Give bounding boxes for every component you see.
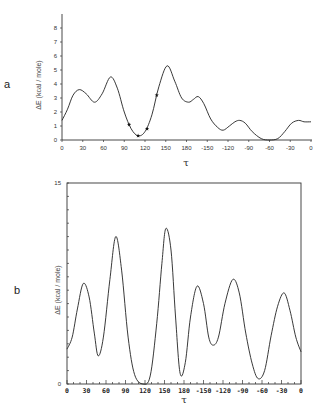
y-tick-label-a: 0 bbox=[54, 137, 58, 143]
panel-label-b: b bbox=[14, 284, 20, 296]
x-tick-label-b: 0 bbox=[65, 387, 69, 395]
x-tick-label-b: -120 bbox=[215, 387, 231, 395]
x-tick-label-b: -90 bbox=[237, 387, 249, 395]
y-axis-label-b: ΔE (kcal / mole) bbox=[54, 265, 62, 314]
x-tick-label-a: 90 bbox=[121, 145, 128, 151]
x-tick-label-a: -90 bbox=[244, 145, 253, 151]
star-marker bbox=[127, 122, 131, 126]
x-tick-label-a: 60 bbox=[100, 145, 107, 151]
x-tick-label-a: -150 bbox=[201, 145, 214, 151]
x-tick-label-b: -30 bbox=[276, 387, 288, 395]
y-tick-label-a: 2 bbox=[54, 109, 58, 115]
x-tick-label-a: 0 bbox=[60, 145, 64, 151]
y-tick-label-a: 6 bbox=[54, 53, 58, 59]
y-tick-label-a: 3 bbox=[54, 95, 58, 101]
y-tick-label-b: 15 bbox=[54, 180, 61, 186]
x-tick-label-b: 0 bbox=[299, 387, 303, 395]
y-tick-label-a: 8 bbox=[54, 25, 58, 31]
x-tick-label-a: -60 bbox=[265, 145, 274, 151]
y-tick-label-a: 5 bbox=[54, 67, 58, 73]
curve-a bbox=[62, 66, 311, 140]
y-tick-label-a: 1 bbox=[54, 123, 58, 129]
x-tick-label-b: 60 bbox=[102, 387, 110, 395]
x-tick-label-a: -120 bbox=[222, 145, 235, 151]
x-tick-label-b: 120 bbox=[139, 387, 151, 395]
y-axis-label-a: ΔE (kcal / mole) bbox=[35, 60, 43, 109]
chart-b: b ΔE (kcal / mole) 0306090120150180-150-… bbox=[14, 180, 303, 405]
x-axis-label-b: τ bbox=[181, 394, 187, 405]
plot-frame-b bbox=[67, 183, 301, 384]
x-tick-label-a: 120 bbox=[140, 145, 151, 151]
star-marker bbox=[136, 134, 140, 138]
panel-label-a: a bbox=[4, 78, 11, 90]
x-tick-label-a: 150 bbox=[161, 145, 172, 151]
x-axis-label-a: τ bbox=[183, 157, 189, 168]
figure: a ΔE (kcal / mole) 0306090120150180-150-… bbox=[0, 0, 324, 413]
chart-a: a ΔE (kcal / mole) 0306090120150180-150-… bbox=[4, 14, 313, 168]
x-tick-label-a: 30 bbox=[79, 145, 86, 151]
y-tick-label-a: 7 bbox=[54, 39, 58, 45]
x-tick-label-b: 90 bbox=[122, 387, 130, 395]
x-tick-label-b: 30 bbox=[83, 387, 91, 395]
curve-b bbox=[67, 228, 301, 384]
x-tick-label-b: -60 bbox=[256, 387, 268, 395]
x-tick-label-a: 180 bbox=[181, 145, 192, 151]
y-tick-label-b: 0 bbox=[58, 381, 62, 387]
x-tick-label-a: -30 bbox=[286, 145, 295, 151]
x-tick-label-b: 150 bbox=[159, 387, 171, 395]
x-tick-label-a: 0 bbox=[309, 145, 313, 151]
y-tick-label-a: 4 bbox=[54, 81, 58, 87]
x-tick-label-b: -150 bbox=[196, 387, 212, 395]
